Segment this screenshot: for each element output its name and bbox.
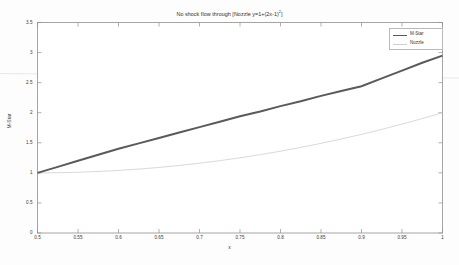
y-tick-label: 2.5 — [19, 80, 33, 85]
legend-entry-m-star[interactable]: M-Star — [390, 31, 444, 40]
x-axis-label: x — [0, 244, 459, 250]
legend-swatch-m-star — [393, 35, 407, 36]
x-tick-label: 0.6 — [108, 235, 130, 240]
legend-swatch-nozzle — [393, 44, 407, 45]
y-tick-label: 0 — [19, 230, 33, 235]
x-tick-label: 0.7 — [189, 235, 211, 240]
y-tick-label: 3 — [19, 50, 33, 55]
figure-canvas: No shock flow through [Nozzle y=1+(2x-1)… — [0, 0, 459, 265]
x-tick-label: 0.8 — [270, 235, 292, 240]
y-tick-label: 1.5 — [19, 140, 33, 145]
x-tick-label: 0.95 — [391, 235, 413, 240]
y-tick-label: 1 — [19, 170, 33, 175]
legend-label-nozzle: Nozzle — [410, 40, 424, 45]
legend-label-m-star: M-Star — [410, 31, 424, 36]
y-tick-label: 2 — [19, 110, 33, 115]
x-tick-label: 0.55 — [67, 235, 89, 240]
x-tick-label: 1 — [432, 235, 454, 240]
x-tick-label: 0.65 — [148, 235, 170, 240]
x-tick-label: 0.5 — [27, 235, 49, 240]
y-axis-label: M-Star — [6, 96, 12, 146]
y-tick-label: 0.5 — [19, 200, 33, 205]
legend-box[interactable]: M-Star Nozzle — [389, 28, 443, 50]
axes-frame — [38, 23, 443, 234]
x-tick-label: 0.9 — [351, 235, 373, 240]
y-tick-label: 3.5 — [19, 20, 33, 25]
x-tick-label: 0.75 — [229, 235, 251, 240]
x-tick-label: 0.85 — [310, 235, 332, 240]
legend-entry-nozzle[interactable]: Nozzle — [390, 40, 444, 49]
